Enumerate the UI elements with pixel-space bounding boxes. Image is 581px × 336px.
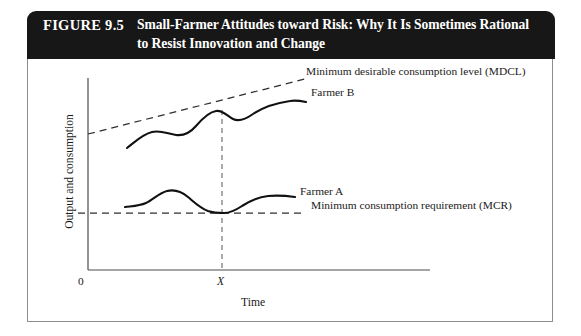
x-axis-tick-x: X: [217, 275, 224, 288]
figure-title: Small-Farmer Attitudes toward Risk: Why …: [137, 16, 537, 53]
figure-title-line-1: Small-Farmer Attitudes toward Risk: Why …: [137, 16, 537, 35]
mdcl-label: Minimum desirable consumption level (MDC…: [306, 65, 526, 77]
farmer-a-label: Farmer A: [300, 185, 343, 197]
x-axis-tick-origin: 0: [78, 275, 84, 287]
x-axis-label: Time: [241, 296, 265, 309]
y-axis-label: Output and consumption: [63, 102, 76, 242]
figure-header-bar: FIGURE 9.5 Small-Farmer Attitudes toward…: [27, 11, 555, 59]
mcr-label: Minimum consumption requirement (MCR): [311, 199, 512, 211]
figure-number-label: FIGURE 9.5: [43, 17, 124, 34]
farmer-b-label: Farmer B: [311, 86, 354, 98]
figure-title-line-2: to Resist Innovation and Change: [137, 35, 537, 54]
figure-frame: [27, 41, 553, 322]
